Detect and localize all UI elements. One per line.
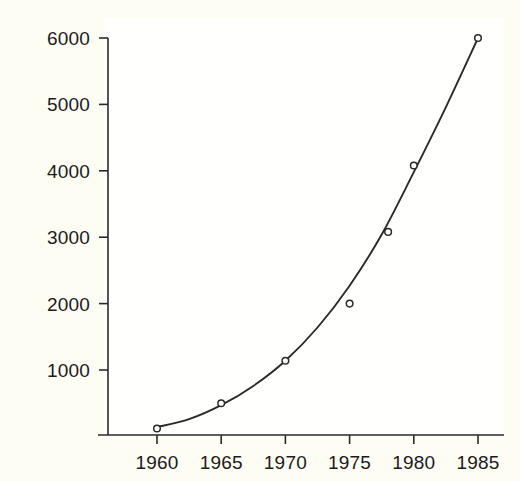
- y-tick-label: 4000: [20, 161, 90, 180]
- y-axis-ticks: [99, 38, 108, 370]
- x-tick-label: 1965: [200, 453, 243, 472]
- y-tick-label: 3000: [20, 228, 90, 247]
- x-tick-label: 1985: [456, 453, 499, 472]
- data-point-markers: [154, 35, 482, 432]
- x-tick-label: 1960: [135, 453, 178, 472]
- y-tick-label: 5000: [20, 95, 90, 114]
- x-tick-label: 1980: [392, 453, 435, 472]
- y-tick-label: 2000: [20, 294, 90, 313]
- axis-lines: [98, 38, 504, 435]
- chart-figure: 100020003000400050006000 196019651970197…: [0, 0, 520, 481]
- y-tick-label: 6000: [20, 29, 90, 48]
- x-axis-ticks: [157, 435, 478, 444]
- fitted-curve: [157, 38, 478, 427]
- y-tick-label: 1000: [20, 361, 90, 380]
- x-tick-label: 1970: [264, 453, 307, 472]
- x-tick-label: 1975: [328, 453, 371, 472]
